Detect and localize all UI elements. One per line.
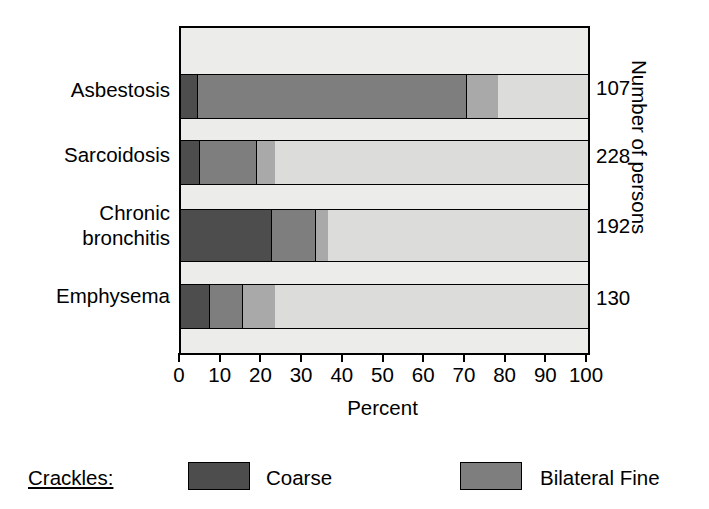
- x-axis-tick-label: 40: [330, 363, 353, 387]
- x-axis-tick-label: 60: [412, 363, 435, 387]
- bar-segment: [256, 141, 274, 184]
- x-axis-tick-label: 80: [493, 363, 516, 387]
- x-axis-title: Percent: [179, 396, 586, 420]
- x-axis-tick-label: 100: [569, 363, 603, 387]
- x-axis-tick: [463, 353, 465, 362]
- bar-segment: [466, 75, 499, 118]
- category-label-chronic-bronchitis: Chronic bronchitis: [0, 200, 170, 250]
- x-axis-tick: [422, 353, 424, 362]
- category-label-asbestosis: Asbestosis: [0, 77, 170, 102]
- bar-row: [181, 284, 588, 329]
- bar-segment: [181, 75, 197, 118]
- right-axis-title: Number of persons: [627, 60, 651, 320]
- bar-segment: [271, 210, 316, 261]
- legend-label-bilateral-fine: Bilateral Fine: [540, 466, 660, 490]
- bar-segment: [181, 210, 271, 261]
- legend-label-coarse: Coarse: [266, 466, 332, 490]
- bar-segment: [209, 285, 242, 328]
- bar-row: [181, 209, 588, 262]
- category-label-emphysema: Emphysema: [0, 283, 170, 308]
- plot-area: [179, 26, 590, 355]
- x-axis-tick: [178, 353, 180, 362]
- bar-segment: [181, 141, 199, 184]
- x-axis-tick-label: 70: [452, 363, 475, 387]
- bar-row: [181, 140, 588, 185]
- bar-segment: [197, 75, 466, 118]
- x-axis-tick-label: 0: [173, 363, 184, 387]
- x-axis-tick: [219, 353, 221, 362]
- legend-swatch-coarse: [188, 462, 250, 490]
- x-axis-tick-label: 50: [371, 363, 394, 387]
- category-label-sarcoidosis: Sarcoidosis: [0, 142, 170, 167]
- x-axis-tick: [585, 353, 587, 362]
- x-axis-tick: [544, 353, 546, 362]
- x-axis-tick: [300, 353, 302, 362]
- bar-segment: [181, 285, 209, 328]
- bar-row: [181, 74, 588, 119]
- x-axis-tick: [504, 353, 506, 362]
- x-axis-tick-label: 90: [534, 363, 557, 387]
- x-axis-tick: [259, 353, 261, 362]
- x-axis-tick: [382, 353, 384, 362]
- bar-segment: [199, 141, 256, 184]
- bar-segment: [315, 210, 327, 261]
- legend-title: Crackles:: [28, 466, 113, 490]
- x-axis-tick: [341, 353, 343, 362]
- stacked-bar-chart: Asbestosis Sarcoidosis Chronic bronchiti…: [0, 0, 709, 509]
- legend-swatch-bilateral-fine: [460, 462, 522, 490]
- x-axis-tick-label: 10: [208, 363, 231, 387]
- x-axis-tick-label: 30: [290, 363, 313, 387]
- legend: Crackles: Coarse Bilateral Fine: [28, 460, 688, 500]
- bar-segment: [242, 285, 275, 328]
- x-axis-tick-label: 20: [249, 363, 272, 387]
